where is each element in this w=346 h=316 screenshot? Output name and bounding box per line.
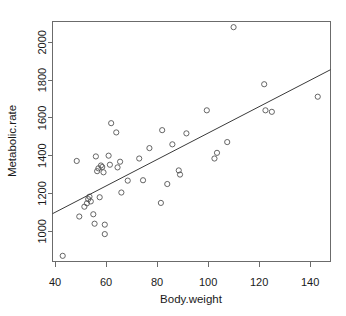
regression-line [53,70,331,214]
data-point [140,178,145,183]
data-point [107,162,112,167]
data-point [60,253,65,258]
data-point [160,128,165,133]
data-point [97,195,102,200]
data-point [170,142,175,147]
data-point [165,181,170,186]
data-point [158,200,163,205]
x-axis: 406080100120140 [49,262,319,288]
y-tick-label: 1000 [36,219,48,243]
chart-canvas: 100012001400160018002000 406080100120140… [0,0,346,316]
y-tick-label: 1400 [36,143,48,167]
y-axis: 100012001400160018002000 [36,30,52,243]
data-point [212,156,217,161]
data-point [93,154,98,159]
data-point [74,158,79,163]
data-point [225,139,230,144]
y-tick-label: 1800 [36,68,48,92]
x-tick-label: 80 [151,276,163,288]
data-point [119,190,124,195]
data-point [114,130,119,135]
y-axis-title: Metabolic.rate [6,105,18,177]
data-point [115,165,120,170]
y-tick-label: 1200 [36,181,48,205]
data-points-layer [60,25,320,259]
data-point [231,25,236,30]
scatter-plot-figure: 100012001400160018002000 406080100120140… [0,0,346,316]
data-point [77,214,82,219]
data-point [92,221,97,226]
y-tick-label: 1600 [36,106,48,130]
data-point [204,108,209,113]
y-tick-label: 2000 [36,30,48,54]
data-point [269,109,274,114]
data-point [147,146,152,151]
data-point [117,159,122,164]
data-point [137,156,142,161]
data-point [102,222,107,227]
data-point [91,212,96,217]
data-point [184,131,189,136]
data-point [315,94,320,99]
data-point [101,170,106,175]
data-point [106,153,111,158]
data-point [214,150,219,155]
data-point [263,108,268,113]
data-point [262,82,267,87]
x-tick-label: 120 [250,276,268,288]
x-tick-label: 60 [100,276,112,288]
data-point [125,178,130,183]
x-tick-label: 100 [199,276,217,288]
x-tick-label: 140 [301,276,319,288]
x-tick-label: 40 [49,276,61,288]
data-point [109,121,114,126]
x-axis-title: Body.weight [160,293,223,305]
data-point [102,232,107,237]
